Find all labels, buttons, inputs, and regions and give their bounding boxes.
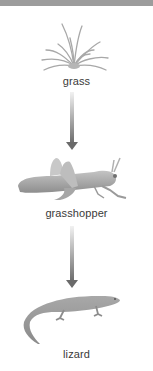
arrowhead-icon — [66, 280, 78, 288]
lizard-icon — [20, 290, 124, 346]
grasshopper-icon — [14, 156, 132, 202]
arrow-shaft — [70, 226, 74, 281]
arrow-grass-to-grasshopper — [66, 92, 78, 150]
node-label-grass: grass — [0, 75, 153, 87]
grass-icon — [38, 20, 114, 72]
arrow-grasshopper-to-lizard — [66, 226, 78, 288]
arrow-shaft — [70, 92, 74, 143]
top-border-bar — [0, 0, 153, 6]
arrowhead-icon — [66, 142, 78, 150]
node-label-grasshopper: grasshopper — [0, 207, 153, 219]
node-label-lizard: lizard — [0, 348, 153, 360]
